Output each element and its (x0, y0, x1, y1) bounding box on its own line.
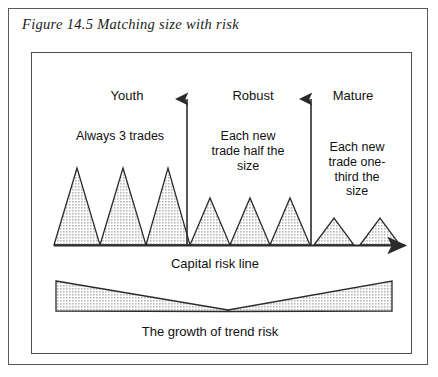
bowtie-trend-risk (56, 281, 392, 312)
triangle-robust-2 (230, 198, 270, 245)
triangle-group-robust (190, 198, 310, 245)
triangle-youth-1 (54, 168, 100, 245)
description-label-mature: Each new trade one- third the size (318, 140, 396, 199)
trend-risk-label: The growth of trend risk (105, 324, 315, 339)
triangle-mature-2 (360, 218, 400, 245)
triangle-youth-3 (146, 168, 190, 245)
phase-label-mature: Mature (312, 88, 394, 103)
triangle-robust-1 (190, 198, 230, 245)
triangle-group-mature (314, 218, 400, 245)
triangle-mature-1 (314, 218, 354, 245)
figure-page: Figure 14.5 Matching size with risk (0, 0, 438, 377)
triangle-youth-2 (100, 168, 146, 245)
phase-label-robust: Robust (208, 88, 298, 103)
capital-risk-line-label: Capital risk line (115, 256, 315, 271)
triangle-robust-3 (270, 198, 310, 245)
description-label-youth: Always 3 trades (60, 129, 180, 144)
triangle-group-youth (54, 168, 190, 245)
phase-label-youth: Youth (82, 88, 172, 103)
description-label-robust: Each new trade half the size (196, 129, 300, 173)
